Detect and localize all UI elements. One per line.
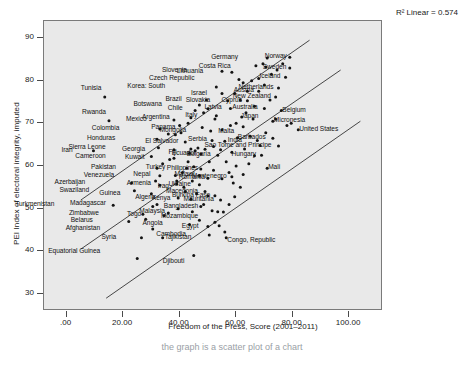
point-label: Zimbabwe: [69, 209, 99, 216]
data-point: [277, 86, 280, 89]
data-point: [223, 231, 226, 234]
x-axis-tick-mark: [122, 311, 123, 317]
point-label: Angola: [142, 219, 162, 226]
point-label: El Salvador: [145, 137, 178, 144]
x-axis-tick-mark: [235, 311, 236, 317]
data-point: [187, 160, 190, 163]
data-point: [107, 119, 110, 122]
point-label: Djibouti: [163, 257, 185, 264]
point-label: Egypt: [182, 222, 199, 229]
data-point: [172, 157, 175, 160]
point-label: Latvia: [204, 103, 221, 110]
data-point: [199, 205, 202, 208]
x-axis-tick-mark: [348, 311, 349, 317]
data-point: [263, 107, 266, 110]
data-point: [172, 118, 175, 121]
x-axis-tick-mark: [292, 311, 293, 317]
point-label: Netherlands: [238, 83, 273, 90]
data-point: [208, 160, 211, 163]
point-label: Afghanistan: [66, 224, 100, 231]
point-label: Panama: [151, 123, 175, 130]
point-label: Venezuela: [84, 171, 114, 178]
point-label: Australia: [232, 103, 257, 110]
point-label: Montenegro: [192, 172, 227, 179]
data-point: [218, 224, 221, 227]
x-axis-label: Freedom of the Press, Score (2001–2011): [0, 322, 464, 331]
point-label: Barbados: [238, 133, 266, 140]
data-point: [274, 95, 277, 98]
point-label: New Zealand: [233, 92, 271, 99]
data-point: [288, 56, 291, 59]
regression-line: [81, 70, 341, 249]
data-point: [133, 189, 136, 192]
y-axis-tick-mark: [37, 293, 43, 294]
point-label: Slovenia: [162, 66, 187, 73]
point-label: Swaziland: [59, 186, 89, 193]
data-point: [154, 179, 157, 182]
data-point: [208, 234, 211, 237]
y-axis-tick-mark: [37, 122, 43, 123]
data-point: [242, 173, 245, 176]
data-point: [271, 137, 274, 140]
data-point: [228, 203, 231, 206]
data-point: [216, 154, 219, 157]
y-axis-tick-label: 90: [4, 32, 34, 41]
point-label: Mali: [268, 163, 280, 170]
point-label: Algeria: [135, 193, 155, 200]
point-label: Philippines: [167, 164, 198, 171]
data-point: [187, 122, 190, 125]
point-label: Colombia: [92, 124, 119, 131]
point-label: Guinea: [99, 189, 120, 196]
data-point: [157, 146, 160, 149]
r-squared-text: R² Linear = 0.574: [396, 8, 458, 17]
data-point: [285, 124, 288, 127]
point-label: Chile: [168, 104, 183, 111]
data-point: [158, 174, 161, 177]
point-label: Argentina: [142, 113, 170, 120]
data-point: [247, 162, 250, 165]
point-label: Syria: [101, 233, 116, 240]
data-point: [168, 158, 171, 161]
point-label: Turkey: [146, 163, 166, 170]
point-label: Armenia: [127, 179, 151, 186]
point-label: Costa Rica: [199, 62, 231, 69]
point-label: Tunisia: [81, 84, 102, 91]
point-label: Rwanda: [82, 108, 106, 115]
data-point: [232, 182, 235, 185]
data-point: [150, 155, 153, 158]
figure-caption: the graph is a scatter plot of a chart: [0, 342, 464, 352]
data-point: [196, 147, 199, 150]
data-point: [211, 209, 214, 212]
data-point: [202, 111, 205, 114]
y-axis-tick-mark: [37, 250, 43, 251]
y-axis-tick-label: 80: [4, 75, 34, 84]
data-point: [127, 220, 130, 223]
data-point: [230, 175, 233, 178]
y-axis-tick-mark: [37, 165, 43, 166]
point-label: Sierra Leone: [68, 143, 105, 150]
point-label: Mozambique: [161, 212, 198, 219]
data-point: [215, 114, 218, 117]
data-point: [215, 86, 218, 89]
x-axis-tick-mark: [179, 311, 180, 317]
y-axis-tick-mark: [37, 80, 43, 81]
data-point: [260, 154, 263, 157]
data-point: [254, 64, 257, 67]
point-label: Azerbaijan: [55, 178, 86, 185]
y-axis-label: PEI Index of electoral integrity, impute…: [12, 102, 21, 245]
point-label: Burkina Faso: [172, 191, 210, 198]
data-point: [250, 79, 253, 82]
point-label: Turkmenistan: [15, 200, 54, 207]
data-point: [206, 225, 209, 228]
data-point: [136, 257, 139, 260]
point-label: Botswana: [133, 100, 162, 107]
data-point: [242, 125, 245, 128]
data-point: [140, 236, 143, 239]
point-label: Kuwait: [125, 153, 145, 160]
point-label: Honduras: [87, 134, 115, 141]
point-label: Iceland: [260, 72, 281, 79]
point-label: Norway: [265, 52, 287, 59]
point-label: Bangladesh: [164, 202, 198, 209]
data-point: [198, 104, 201, 107]
data-point: [235, 165, 238, 168]
